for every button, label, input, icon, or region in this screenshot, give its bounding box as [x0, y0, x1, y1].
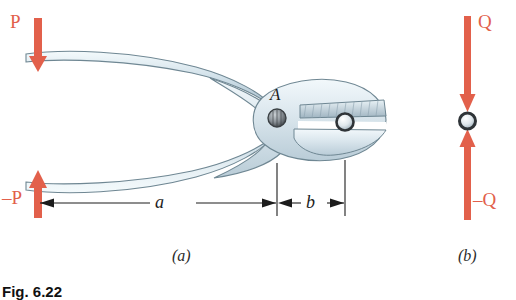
panel-label-b: (b) — [458, 248, 477, 264]
panel-label-a: (a) — [172, 248, 191, 264]
dimension-label-a: a — [155, 193, 164, 211]
gripped-object-circle — [337, 114, 354, 131]
panel-b-object-circle — [460, 113, 476, 129]
force-label-minus-P: –P — [2, 188, 22, 207]
pliers-lower-jaw — [294, 129, 386, 155]
force-label-Q: Q — [478, 12, 492, 31]
force-label-minus-Q: –Q — [473, 190, 496, 209]
figure-container: P –P A a b Q –Q (a) (b) Fig. 6.22 — [0, 0, 516, 300]
panel-b-force-arrow-Q — [460, 16, 476, 112]
pivot-label-A: A — [270, 86, 280, 103]
pliers-assembly — [26, 51, 386, 192]
pliers-lower-handle — [26, 138, 272, 193]
force-arrow-P — [29, 18, 47, 72]
force-arrow-minus-P — [29, 170, 47, 218]
figure-caption: Fig. 6.22 — [2, 284, 62, 299]
force-label-P: P — [10, 12, 21, 31]
pliers-upper-handle — [26, 51, 272, 106]
figure-artwork — [0, 0, 516, 300]
dimension-label-b: b — [306, 193, 315, 211]
